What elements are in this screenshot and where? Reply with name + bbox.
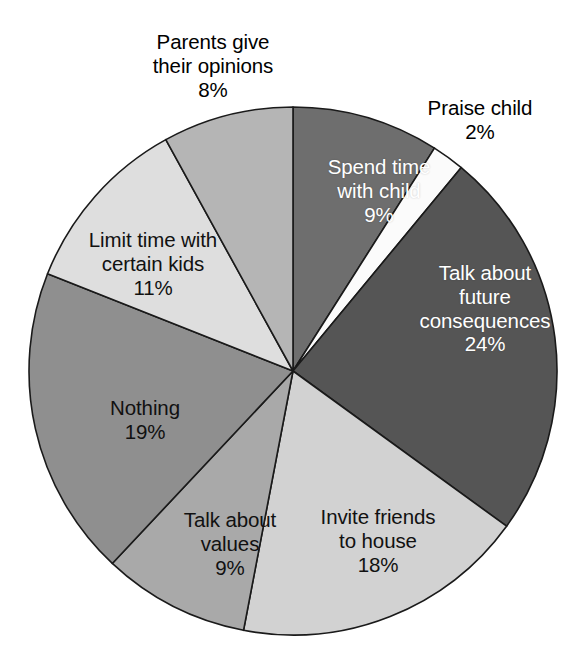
pie-chart-canvas bbox=[0, 0, 578, 671]
pie-chart: Spend time with child 9% Praise child 2%… bbox=[0, 0, 578, 671]
pie-slice-group bbox=[29, 107, 557, 635]
